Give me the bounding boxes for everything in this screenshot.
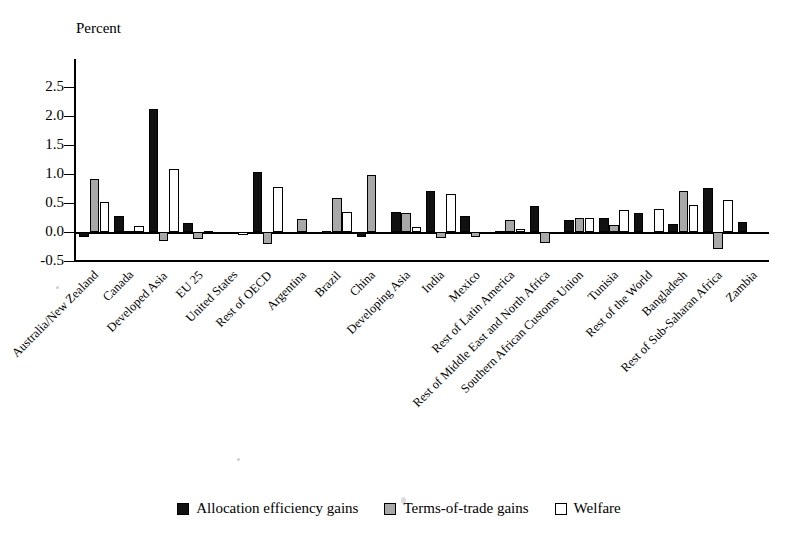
bar-alloc[interactable] [114, 216, 124, 232]
bar-tot[interactable] [575, 218, 585, 232]
bar-tot[interactable] [713, 232, 723, 249]
legend-label: Allocation efficiency gains [196, 500, 358, 517]
y-axis-tick [64, 145, 74, 146]
bar-welf[interactable] [273, 187, 283, 232]
bar-welf[interactable] [619, 210, 629, 232]
bar-tot[interactable] [332, 198, 342, 232]
bar-alloc[interactable] [564, 220, 574, 232]
y-axis-tick-label: 2.5 [45, 79, 64, 94]
bar-alloc[interactable] [703, 188, 713, 232]
bar-alloc[interactable] [322, 231, 332, 233]
chart-legend: Allocation efficiency gains Terms-of-tra… [0, 500, 798, 517]
bar-tot[interactable] [193, 232, 203, 239]
bar-tot[interactable] [540, 232, 550, 243]
bar-tot[interactable] [471, 232, 481, 237]
bar-welf[interactable] [516, 229, 526, 232]
bar-welf[interactable] [238, 232, 248, 235]
bar-alloc[interactable] [495, 231, 505, 233]
bar-tot[interactable] [505, 220, 515, 232]
bar-tot[interactable] [367, 175, 377, 232]
legend-item-terms-of-trade-gains[interactable]: Terms-of-trade gains [384, 500, 528, 517]
y-axis-tick [64, 232, 74, 233]
y-axis-tick [64, 87, 74, 88]
white-square-icon [555, 503, 567, 515]
bar-alloc[interactable] [530, 206, 540, 232]
legend-label: Welfare [574, 500, 621, 517]
bar-welf[interactable] [654, 209, 664, 232]
y-axis-tick-label: 2.0 [45, 108, 64, 123]
bar-tot[interactable] [436, 232, 446, 238]
bar-welf[interactable] [342, 212, 352, 232]
black-square-icon [177, 503, 189, 515]
bar-welf[interactable] [100, 202, 110, 232]
bar-alloc[interactable] [357, 232, 367, 237]
bar-tot[interactable] [401, 213, 411, 232]
bar-alloc[interactable] [149, 109, 159, 232]
bar-welf[interactable] [723, 200, 733, 232]
bar-alloc[interactable] [426, 191, 436, 232]
y-axis-tick-label: 0.0 [45, 224, 64, 239]
bar-tot[interactable] [609, 225, 619, 232]
bar-welf[interactable] [377, 232, 387, 234]
y-axis-tick [64, 261, 74, 262]
bar-tot[interactable] [124, 231, 134, 233]
bar-alloc[interactable] [668, 224, 678, 232]
scan-speck [56, 286, 59, 289]
y-axis-tick-label: 1.0 [45, 166, 64, 181]
legend-label: Terms-of-trade gains [403, 500, 528, 517]
bar-welf[interactable] [412, 227, 422, 232]
bar-alloc[interactable] [79, 232, 89, 237]
y-axis-tick-label: 0.5 [45, 195, 64, 210]
bar-alloc[interactable] [634, 213, 644, 232]
bar-welf[interactable] [446, 194, 456, 232]
bar-tot[interactable] [228, 232, 238, 234]
bars-layer [76, 0, 769, 300]
bar-tot[interactable] [679, 191, 689, 232]
y-axis-tick-label: -0.5 [40, 253, 64, 268]
bar-tot[interactable] [90, 179, 100, 232]
bar-alloc[interactable] [183, 223, 193, 232]
bar-welf[interactable] [134, 226, 144, 232]
bar-welf[interactable] [585, 218, 595, 233]
y-axis-tick [64, 174, 74, 175]
bar-alloc[interactable] [391, 212, 401, 232]
bar-tot[interactable] [263, 232, 273, 244]
y-axis-tick-label: 1.5 [45, 137, 64, 152]
bar-tot[interactable] [159, 232, 169, 241]
bar-alloc[interactable] [460, 216, 470, 232]
bar-welf[interactable] [689, 205, 699, 232]
legend-item-allocation-efficiency-gains[interactable]: Allocation efficiency gains [177, 500, 358, 517]
y-axis-tick [64, 203, 74, 204]
bar-alloc[interactable] [738, 222, 748, 232]
bar-alloc[interactable] [218, 232, 228, 234]
legend-item-welfare[interactable]: Welfare [555, 500, 621, 517]
chart-figure: Percent 2.52.01.51.00.50.0-0.5 Australia… [0, 0, 798, 552]
y-axis-tick [64, 116, 74, 117]
bar-tot[interactable] [297, 219, 307, 232]
bar-welf[interactable] [204, 231, 214, 233]
bar-alloc[interactable] [599, 218, 609, 233]
scan-speck [237, 458, 240, 461]
bar-alloc[interactable] [253, 172, 263, 232]
x-axis-label: Australia/New Zealand [9, 268, 102, 361]
gray-square-icon [384, 503, 396, 515]
bar-welf[interactable] [169, 169, 179, 232]
